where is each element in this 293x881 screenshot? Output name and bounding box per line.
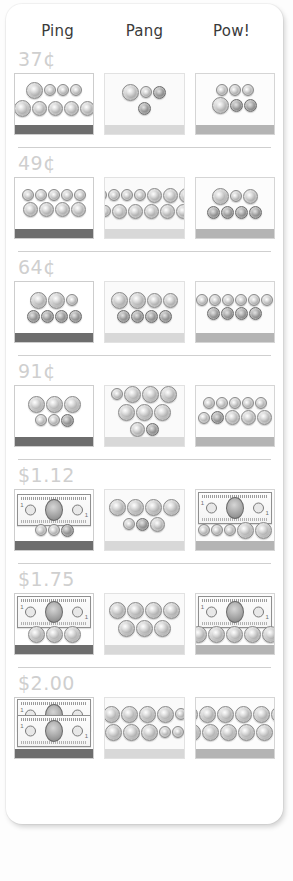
coin-nickel [112,204,127,219]
money-cell-ping[interactable] [12,385,96,447]
money-cell-pow[interactable] [193,281,277,343]
coin-row [105,724,185,741]
coin-row [34,414,74,427]
price-row: 37¢ [6,44,283,141]
money-cell-pow[interactable] [193,697,277,759]
coin-quarter [46,396,63,413]
coin-penny [211,411,224,424]
coin-tray: 11 [14,489,94,551]
coin-quarter [127,499,144,516]
coin-dime [242,84,254,96]
money-cell-ping[interactable] [12,281,96,343]
coin-dime [104,189,107,201]
tray-base [15,229,93,238]
coin-dime [61,189,73,201]
coin-penny [159,310,172,323]
price-row: 91¢ [6,355,283,453]
coin-dime [104,205,110,217]
money-cell-pow[interactable] [193,73,277,135]
coin-penny [249,206,262,219]
coin-nickel [257,410,272,425]
coin-row [110,292,178,309]
money-cell-pang[interactable] [102,385,186,447]
tray-contents [105,490,183,541]
coin-penny [221,307,234,320]
coin-dime [242,397,254,409]
coin-nickel [55,202,70,217]
coin-dime [108,189,120,201]
coin-quarter [271,706,275,723]
tray-contents [15,282,93,333]
coin-penny [207,307,220,320]
coin-quarter [195,724,201,741]
money-cell-pang[interactable] [102,281,186,343]
price-row: 49¢ [6,147,283,245]
coin-row [27,626,81,643]
money-cell-pow[interactable]: 11 [193,489,277,551]
coin-penny [69,310,82,323]
money-cell-pang[interactable] [102,73,186,135]
coin-row [111,386,178,403]
price-rows: 37¢49¢64¢91¢$1.121111$1.751111$2.001111 [6,44,283,771]
money-cell-ping[interactable]: 1111 [12,697,96,759]
coin-nickel [80,101,95,116]
coin-dime [216,397,228,409]
coin-dime [175,708,185,720]
money-cell-pang[interactable] [102,697,186,759]
money-cell-pang[interactable] [102,593,186,655]
coin-penny [136,518,149,531]
coin-tray [195,281,275,343]
coin-nickel [130,422,145,437]
price-row: 64¢ [6,251,283,349]
coin-dime [274,726,275,738]
coin-dime [222,294,234,306]
coin-penny [249,307,262,320]
tray-base [15,437,93,446]
tray-contents: 11 [15,594,93,645]
money-cell-pow[interactable] [193,385,277,447]
coin-quarter [238,724,255,741]
coin-tray [104,73,184,135]
price-row: $2.001111 [6,667,283,765]
coin-penny [235,307,248,320]
coin-penny [55,310,68,323]
coin-dime [216,84,228,96]
coin-nickel [39,202,54,217]
coin-row [22,202,86,217]
coin-quarter [64,626,81,643]
money-cell-pang[interactable] [102,177,186,239]
money-cell-pang[interactable] [102,489,186,551]
money-cell-ping[interactable]: 11 [12,593,96,655]
money-cell-ping[interactable] [12,73,96,135]
coin-row [22,189,87,201]
coin-quarter [220,724,237,741]
coin-dime [48,524,60,536]
coin-dime [211,524,223,536]
coin-tray [195,177,275,239]
money-cell-ping[interactable]: 11 [12,489,96,551]
coin-quarter [124,386,141,403]
coin-nickel [71,202,86,217]
coin-tray [14,177,94,239]
coin-penny [221,206,234,219]
coin-penny [131,310,144,323]
coin-quarter [139,706,156,723]
coin-row [14,100,94,117]
money-cell-pow[interactable]: 11 [193,593,277,655]
coin-nickel [163,293,178,308]
coin-dime [159,726,171,738]
coin-penny [138,102,151,115]
coin-tray [195,385,275,447]
coin-quarter [109,499,126,516]
coin-penny [41,310,54,323]
tray-contents [105,698,183,749]
money-cell-pow[interactable] [193,177,277,239]
row-price-label: 49¢ [6,148,283,177]
coin-dime [203,397,215,409]
coin-dime [123,518,135,530]
dollar-bill: 11 [198,596,272,628]
money-cell-ping[interactable] [12,177,96,239]
coin-row [207,206,263,219]
coin-dime [198,412,210,424]
coin-quarter [256,724,273,741]
